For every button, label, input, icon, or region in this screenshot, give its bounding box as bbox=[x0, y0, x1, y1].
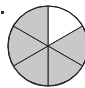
fraction-circle bbox=[0, 0, 85, 88]
